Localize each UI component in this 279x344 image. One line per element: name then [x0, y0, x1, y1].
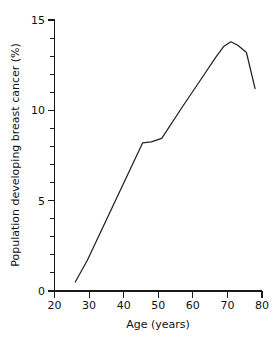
y-axis-minor-ticks	[50, 38, 55, 273]
y-axis-major-ticks	[48, 20, 55, 291]
x-tick-label-80: 80	[255, 299, 269, 312]
y-tick-label-0: 0	[38, 285, 45, 298]
data-series-line	[75, 42, 255, 282]
x-tick-label-30: 30	[82, 299, 96, 312]
y-axis-tick-labels: 0 5 10 15	[31, 14, 45, 298]
x-tick-label-20: 20	[48, 299, 62, 312]
y-tick-label-15: 15	[31, 14, 45, 27]
x-tick-label-70: 70	[220, 299, 234, 312]
x-axis-tick-labels: 20 30 40 50 60 70 80	[48, 299, 270, 312]
x-tick-label-40: 40	[117, 299, 131, 312]
x-tick-label-50: 50	[151, 299, 165, 312]
y-tick-label-10: 10	[31, 104, 45, 117]
x-axis-title: Age (years)	[126, 318, 190, 331]
y-tick-label-5: 5	[38, 195, 45, 208]
x-axis-major-ticks	[55, 291, 263, 298]
plot-axes	[55, 20, 263, 291]
y-axis-title: Population developing breast cancer (%)	[9, 43, 22, 267]
x-tick-label-60: 60	[186, 299, 200, 312]
chart-page: 0 5 10 15 20 30 40 50 60 70 80 Age (year…	[0, 0, 279, 344]
breast-cancer-incidence-chart: 0 5 10 15 20 30 40 50 60 70 80 Age (year…	[0, 0, 279, 344]
